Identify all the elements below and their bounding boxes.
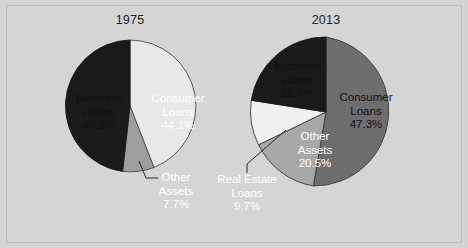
slice-label-line: Real Estate bbox=[205, 173, 289, 187]
slice-label-business-loans-2013: Business Loans 22.5% bbox=[259, 60, 335, 101]
slice-label-line: Assets bbox=[282, 144, 348, 158]
slice-label-line: Consumer bbox=[327, 91, 405, 105]
slice-label-real-estate-loans-2013: Real Estate Loans 9.7% bbox=[205, 173, 289, 214]
slice-value: 20.5% bbox=[282, 157, 348, 171]
figure-canvas: 1975 Business Loans 48.2% Consumer Loans… bbox=[0, 0, 468, 248]
slice-label-other-assets-2013: Other Assets 20.5% bbox=[282, 130, 348, 171]
slice-label-line: Loans bbox=[327, 105, 405, 119]
slice-label-line: Other bbox=[282, 130, 348, 144]
slice-value: 22.5% bbox=[259, 87, 335, 101]
slice-value: 9.7% bbox=[205, 200, 289, 214]
slice-label-line: Loans bbox=[205, 187, 289, 201]
pie-chart-2013: 2013 Business Loans 22.5% Consumer Loans… bbox=[0, 0, 468, 248]
slice-label-line: Loans bbox=[259, 74, 335, 88]
slice-label-line: Business bbox=[259, 60, 335, 74]
slice-label-consumer-loans-2013: Consumer Loans 47.3% bbox=[327, 91, 405, 132]
